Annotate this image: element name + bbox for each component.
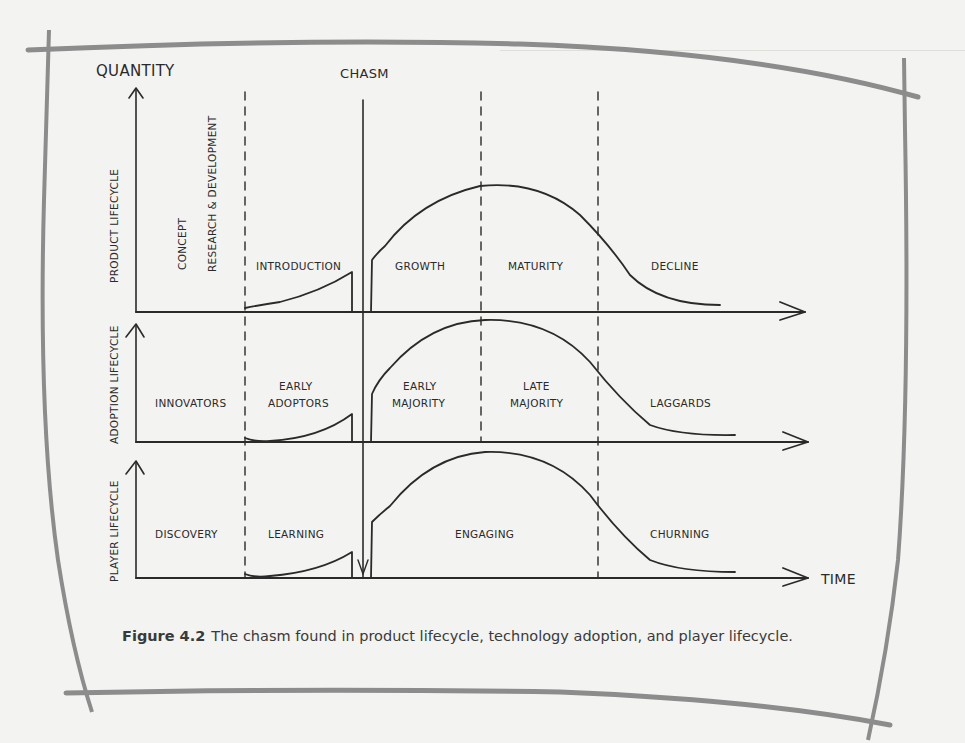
frame-left-curve [43, 30, 92, 712]
y-axis-label: QUANTITY [96, 62, 175, 80]
phase-concept: CONCEPT [176, 217, 188, 270]
phase-late-majority-line1: LATE [523, 380, 550, 392]
figure-number: Figure 4.2 [122, 628, 205, 644]
adoption-y-arrow-icon [126, 324, 144, 337]
phase-learning: LEARNING [268, 528, 324, 540]
phase-introduction: INTRODUCTION [256, 260, 341, 272]
phase-late-majority-line2: MAJORITY [510, 397, 564, 409]
phase-early-majority-line1: EARLY [403, 380, 437, 392]
phase-discovery: DISCOVERY [155, 528, 218, 540]
row-label-product: PRODUCT LIFECYCLE [108, 169, 120, 283]
phase-innovators: INNOVATORS [155, 397, 226, 409]
product-curve-introduction [245, 272, 352, 312]
figure-caption-text: The chasm found in product lifecycle, te… [211, 628, 793, 644]
adoption-curve-early [245, 414, 352, 442]
figure-caption: Figure 4.2The chasm found in product lif… [122, 625, 822, 647]
player-y-arrow-icon [126, 461, 144, 474]
row-label-player: PLAYER LIFECYCLE [108, 480, 120, 582]
phase-early-majority-line2: MAJORITY [392, 397, 446, 409]
phase-growth: GROWTH [395, 260, 445, 272]
phase-research-development: RESEARCH & DEVELOPMENT [206, 115, 218, 272]
phase-early-adopters-line2: ADOPTORS [268, 397, 329, 409]
phase-maturity: MATURITY [508, 260, 563, 272]
phase-engaging: ENGAGING [455, 528, 514, 540]
phase-early-adopters-line1: EARLY [279, 380, 313, 392]
frame-bottom-curve [66, 690, 890, 725]
player-curve-main [371, 452, 735, 578]
row-label-adoption: ADOPTION LIFECYCLE [108, 325, 120, 444]
phase-churning: CHURNING [650, 528, 710, 540]
phase-decline: DECLINE [651, 260, 699, 272]
product-curve-main [371, 185, 720, 312]
frame-right-curve [868, 58, 906, 740]
chasm-label: CHASM [340, 66, 389, 81]
player-curve-learning [245, 552, 352, 578]
x-axis-label: TIME [820, 571, 856, 587]
phase-laggards: LAGGARDS [650, 397, 711, 409]
